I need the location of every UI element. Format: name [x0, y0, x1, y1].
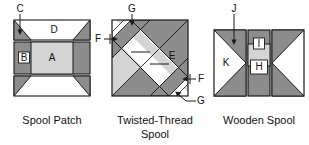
- callout-label-f-right: F: [198, 73, 204, 84]
- wooden-right-panel: [272, 30, 304, 96]
- piece-label-i: I: [258, 38, 261, 49]
- piece-label-a: A: [49, 52, 56, 63]
- spool-middle-band: B A: [14, 42, 90, 74]
- callout-label-g-top: G: [128, 3, 136, 14]
- callout-label-g-bottom: G: [197, 95, 205, 106]
- caption-spool-patch: Spool Patch: [22, 114, 81, 126]
- piece-label-b: B: [21, 52, 28, 63]
- wooden-left-panel: K: [214, 30, 246, 96]
- callout-label-c: C: [16, 3, 23, 14]
- wooden-center-column: I H: [248, 30, 270, 96]
- callout-label-j: J: [232, 3, 237, 14]
- spool-bottom-band: [14, 76, 90, 96]
- diagram-canvas: D B A C Spool Patch: [0, 0, 309, 145]
- tts-body: [112, 20, 188, 96]
- piece-label-k: K: [223, 57, 230, 68]
- caption-twisted-thread-line2: Spool: [141, 128, 169, 140]
- quilt-block-diagram-figure: D B A C Spool Patch: [0, 0, 309, 145]
- piece-label-e: E: [169, 50, 176, 61]
- caption-twisted-thread-line1: Twisted-Thread: [117, 114, 193, 126]
- piece-label-h: H: [255, 61, 262, 72]
- spool-top-band: D: [14, 20, 90, 40]
- piece-label-d: D: [50, 24, 57, 35]
- caption-wooden-spool: Wooden Spool: [223, 114, 295, 126]
- callout-label-f-left: F: [95, 33, 101, 44]
